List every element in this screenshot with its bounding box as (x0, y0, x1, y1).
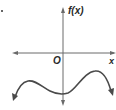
x-axis-left-arrow-icon (12, 51, 18, 55)
y-axis (61, 7, 65, 106)
curve-right-arrow-icon (108, 88, 114, 96)
y-axis-label: f(x) (68, 6, 84, 16)
y-axis-down-arrow-icon (61, 100, 65, 106)
x-axis-label: x (109, 57, 114, 66)
curve-left-arrow-icon (12, 93, 18, 101)
y-axis-up-arrow-icon (61, 7, 65, 13)
x-axis (12, 51, 116, 55)
x-axis-right-arrow-icon (110, 51, 116, 55)
origin-label: O (53, 56, 61, 66)
